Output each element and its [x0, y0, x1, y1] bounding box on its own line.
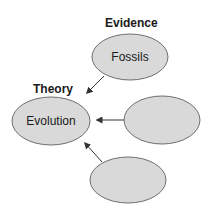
- theory-heading: Theory: [33, 82, 73, 96]
- evidence-heading: Evidence: [105, 16, 158, 30]
- node-label: Evolution: [26, 114, 75, 128]
- node-evidence-3: [90, 157, 166, 203]
- concept-diagram: Evidence Theory Fossils Evolution: [0, 0, 213, 214]
- node-shape: [124, 96, 200, 144]
- node-evidence-2: [124, 96, 200, 144]
- node-label: Fossils: [111, 50, 148, 64]
- node-evolution: Evolution: [12, 97, 90, 145]
- arrow-fossils-to-evolution: [87, 76, 104, 93]
- node-shape: [90, 157, 166, 203]
- arrow-evidence3-to-evolution: [85, 143, 102, 162]
- node-fossils: Fossils: [92, 34, 168, 80]
